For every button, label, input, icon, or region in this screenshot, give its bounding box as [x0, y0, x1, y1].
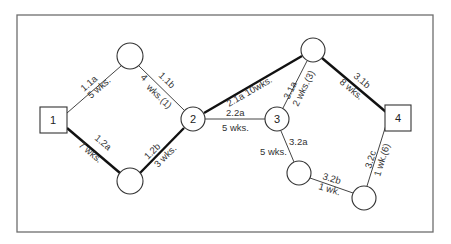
activity-label-1-1b: 1.1b	[157, 70, 178, 91]
node-event-1-1	[117, 43, 143, 69]
node-4-label: 4	[395, 112, 401, 124]
node-2-label: 2	[190, 113, 196, 125]
node-3-label: 3	[274, 113, 280, 125]
network-diagram: 1.1a 5 wks. 4 1.1b wks.(1) 1.2a 7 wks. 1…	[0, 0, 451, 244]
activity-label-2-2a: 2.2a	[226, 107, 245, 118]
node-event-3-2a	[287, 161, 311, 185]
duration-label-1-1b-num: 4	[139, 72, 150, 84]
duration-label-3-2a: 5 wks.	[260, 146, 287, 157]
node-event-2-1	[301, 38, 325, 62]
node-1-label: 1	[50, 114, 56, 126]
activity-label-2-1a: 2.1a 10wks.	[225, 74, 274, 109]
activity-label-3-2a: 3.2a	[289, 136, 308, 147]
node-event-3-2b	[352, 186, 376, 210]
node-event-1-2	[117, 168, 143, 194]
duration-label-2-2a: 5 wks.	[222, 122, 249, 133]
